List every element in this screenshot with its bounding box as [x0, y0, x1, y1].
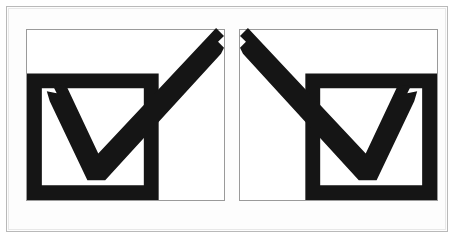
panel-right-checkmark-mirrored — [239, 29, 438, 201]
checkmark-in-box-graphic-right — [240, 30, 437, 200]
tick-stroke-left — [47, 28, 224, 180]
panel-left-checkmark — [26, 29, 225, 201]
tick-stroke-right — [240, 28, 417, 180]
scan-border — [6, 6, 448, 232]
figure-root: Two mirrored check-mark-in-box symbols S… — [0, 0, 463, 245]
checkmark-in-box-graphic-left — [27, 30, 224, 200]
